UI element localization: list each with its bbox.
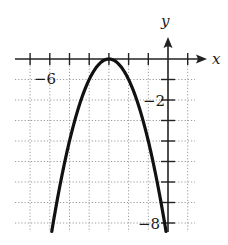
parabola-graph: x y −6 −2 −8 [0, 0, 228, 245]
y-axis-label: y [160, 12, 170, 30]
y-tick-label-neg8: −8 [138, 215, 160, 233]
y-tick-label-neg2: −2 [143, 92, 165, 110]
x-axis-label: x [212, 50, 221, 68]
x-tick-label-neg6: −6 [34, 70, 56, 88]
